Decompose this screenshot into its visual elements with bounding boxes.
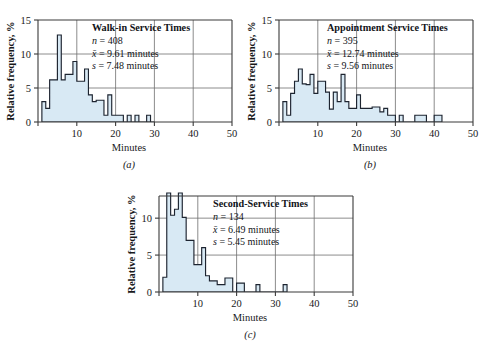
three-panel-histogram-figure: 1020304050051015MinutesRelative frequenc… [0,0,482,345]
panel-b-ytick-0: 0 [267,117,272,128]
panel-b-stat-line-2: s = 9.56 minutes [327,60,393,71]
panel-a-chart: 1020304050051015MinutesRelative frequenc… [0,0,241,176]
panel-b-yaxis-label: Relative frequency, % [246,21,257,120]
panel-a-xtick-10: 10 [72,128,83,139]
panel-b-ytick-5: 5 [267,83,272,94]
panel-a-walk-in-service-times: 1020304050051015MinutesRelative frequenc… [0,0,241,176]
panel-c-title: Second-Service Times [213,198,308,209]
panel-b-xtick-20: 20 [351,128,362,139]
panel-b-annotation-block: Appointment Service Timesn = 395x̄ = 12.… [326,22,448,71]
panel-b-ytick-10: 10 [262,49,273,60]
panel-b-xtick-40: 40 [429,128,440,139]
panel-c-ytick-0: 0 [147,287,152,298]
panel-c-xtick-20: 20 [231,298,242,309]
panel-c-xtick-40: 40 [309,298,320,309]
panel-a-letter-caption: (a) [123,159,136,171]
panel-b-stat-line-0: n = 395 [327,35,358,46]
panel-b-xaxis-label: Minutes [353,142,387,153]
panel-c-xaxis-label: Minutes [233,312,267,323]
panel-a-annotation-block: Walk-in Service Timesn = 408x̄ = 9.61 mi… [91,22,190,71]
panel-c-stat-line-0: n = 134 [213,211,244,222]
panel-a-xtick-20: 20 [110,128,121,139]
panel-c-xtick-30: 30 [270,298,281,309]
panel-c-ytick-10: 10 [142,213,153,224]
panel-c-annotation-block: Second-Service Timesn = 134x̄ = 6.49 min… [212,198,308,247]
panel-b-chart: 1020304050051015MinutesRelative frequenc… [241,0,482,176]
panel-b-appointment-service-times: 1020304050051015MinutesRelative frequenc… [241,0,482,176]
panel-c-chart: 10203040500510MinutesRelative frequency,… [121,172,362,345]
panel-a-ytick-10: 10 [21,49,32,60]
panel-a-xtick-50: 50 [227,128,238,139]
panel-c-xtick-10: 10 [193,298,204,309]
panel-b-ytick-15: 15 [262,15,273,26]
panel-b-title: Appointment Service Times [327,22,448,33]
panel-c-xtick-50: 50 [348,298,359,309]
panel-a-xtick-30: 30 [149,128,160,139]
panel-b-letter-caption: (b) [364,159,377,171]
panel-a-yaxis-label: Relative frequency, % [5,21,16,120]
panel-a-xtick-40: 40 [188,128,199,139]
panel-a-ytick-0: 0 [26,117,31,128]
panel-c-letter-caption: (c) [244,329,256,341]
panel-b-xtick-30: 30 [390,128,401,139]
panel-a-stat-line-1: x̄ = 9.61 minutes [91,48,159,59]
panel-a-title: Walk-in Service Times [92,22,190,33]
panel-c-stat-line-1: x̄ = 6.49 minutes [212,224,280,235]
panel-c-yaxis-label: Relative frequency, % [126,194,137,293]
panel-c-second-service-times: 10203040500510MinutesRelative frequency,… [121,172,362,345]
panel-a-stat-line-2: s = 7.48 minutes [92,60,158,71]
panel-a-xaxis-label: Minutes [112,142,146,153]
panel-b-xtick-10: 10 [313,128,324,139]
panel-a-stat-line-0: n = 408 [92,35,123,46]
panel-a-ytick-15: 15 [21,15,32,26]
panel-c-stat-line-2: s = 5.45 minutes [213,236,279,247]
panel-b-xtick-50: 50 [468,128,479,139]
panel-b-stat-line-1: x̄ = 12.74 minutes [326,48,399,59]
panel-b-histogram-bars [283,69,442,122]
panel-c-ytick-5: 5 [147,250,152,261]
panel-a-ytick-5: 5 [26,83,31,94]
